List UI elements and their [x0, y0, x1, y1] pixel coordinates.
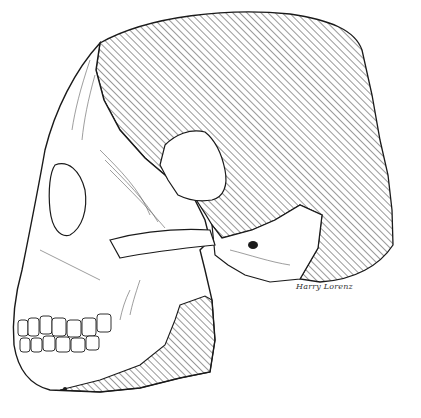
ear-canal — [248, 241, 258, 249]
mental-foramen — [63, 387, 67, 391]
skull-illustration — [0, 0, 421, 418]
artist-signature: Harry Lorenz — [296, 282, 353, 291]
